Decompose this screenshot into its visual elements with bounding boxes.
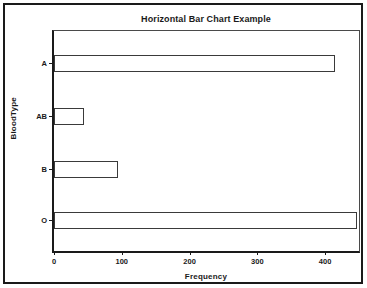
x-tick-label-400: 400: [319, 257, 332, 266]
x-tick-0: [54, 251, 55, 255]
y-tick-b: [49, 169, 54, 170]
x-tick-label-0: 0: [52, 257, 56, 266]
x-tick-label-300: 300: [251, 257, 264, 266]
y-axis-title-text: BloodType: [9, 97, 18, 140]
bar-a: [54, 55, 335, 72]
bar-b: [54, 161, 118, 178]
x-tick-label-100: 100: [116, 257, 129, 266]
x-axis-title: Frequency: [52, 272, 360, 281]
chart-outer-frame: Horizontal Bar Chart Example BloodType A…: [3, 3, 363, 284]
y-tick-ab: [49, 116, 54, 117]
y-tick-label-o: O: [41, 216, 47, 225]
y-axis-title: BloodType: [9, 54, 18, 97]
y-tick-label-a: A: [42, 59, 47, 68]
y-tick-label-b: B: [42, 165, 47, 174]
x-tick-400: [325, 251, 326, 255]
x-tick-label-200: 200: [183, 257, 196, 266]
chart-title: Horizontal Bar Chart Example: [52, 14, 360, 24]
bar-ab: [54, 108, 84, 125]
y-tick-a: [49, 63, 54, 64]
x-tick-200: [190, 251, 191, 255]
x-tick-300: [257, 251, 258, 255]
y-tick-o: [49, 220, 54, 221]
plot-area: AABBO0100200300400: [52, 30, 360, 253]
y-tick-label-ab: AB: [36, 112, 47, 121]
x-tick-100: [122, 251, 123, 255]
bar-o: [54, 212, 357, 229]
chart-window: Horizontal Bar Chart Example BloodType A…: [0, 0, 367, 288]
